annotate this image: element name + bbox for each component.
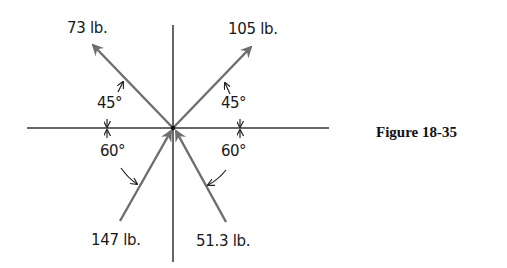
vector-51-3-lb [176, 131, 226, 222]
vector-105-lb [173, 47, 251, 128]
angle-arrow-lr-bottom [208, 170, 226, 185]
origin-point [171, 126, 175, 130]
angle-arrow-ll-bottom [121, 168, 137, 184]
angle-label-lower-right: 60° [221, 142, 246, 160]
label-51-3-lb: 51.3 lb. [196, 232, 250, 250]
angle-label-upper-right: 45° [221, 94, 246, 112]
angle-arrow-ul-top [118, 82, 123, 92]
angle-label-lower-left: 60° [100, 142, 125, 160]
label-105-lb: 105 lb. [228, 20, 278, 38]
vector-73-lb [93, 45, 173, 128]
label-147-lb: 147 lb. [91, 231, 141, 249]
angle-label-upper-left: 45° [97, 94, 122, 112]
label-73-lb: 73 lb. [67, 19, 108, 37]
figure-caption: Figure 18-35 [376, 124, 457, 141]
angle-arrow-ur-top [225, 83, 230, 94]
